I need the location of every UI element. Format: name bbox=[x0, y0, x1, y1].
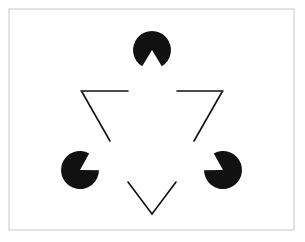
illusion-figure bbox=[0, 0, 305, 242]
kanizsa-triangle-svg bbox=[0, 0, 305, 242]
